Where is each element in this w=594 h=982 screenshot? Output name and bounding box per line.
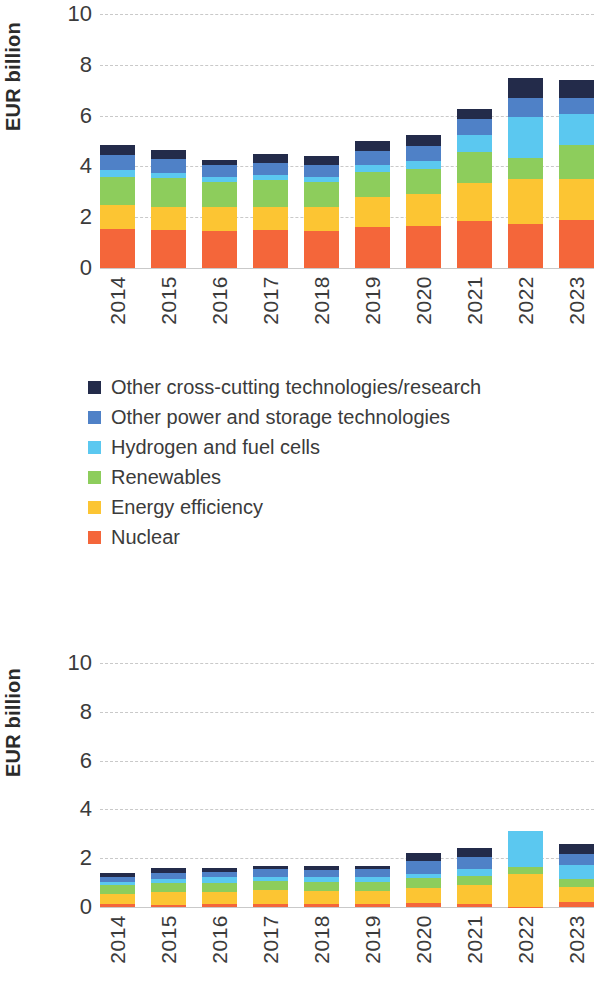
x-axis-tick-label: 2016 <box>208 915 232 964</box>
legend-item-label: Other power and storage technologies <box>111 407 450 427</box>
bar-2016 <box>202 868 237 907</box>
bar-segment-other-cross-cutting-technologies-research <box>457 848 492 856</box>
x-axis-tick-label: 2014 <box>106 915 130 964</box>
bar-segment-nuclear <box>355 904 390 907</box>
bar-segment-renewables <box>406 169 441 194</box>
x-axis-tick-2023: 2023 <box>559 276 594 325</box>
bar-segment-energy-efficiency <box>100 205 135 229</box>
bar-segment-hydrogen-and-fuel-cells <box>457 135 492 153</box>
bar-segment-other-power-and-storage-technologies <box>406 146 441 161</box>
x-axis-tick-label: 2019 <box>361 915 385 964</box>
legend-swatch-icon <box>88 501 101 514</box>
axis-baseline <box>100 907 594 908</box>
legend-item-energy-efficiency: Energy efficiency <box>88 492 568 522</box>
bar-segment-energy-efficiency <box>304 891 339 904</box>
x-axis-tick-2015: 2015 <box>151 276 186 325</box>
x-axis-tick-2017: 2017 <box>253 276 288 325</box>
bar-segment-nuclear <box>100 229 135 268</box>
bar-segment-other-power-and-storage-technologies <box>304 165 339 176</box>
stacked-bar-chart-top: EUR billion 0246810 20142015201620172018… <box>0 0 594 360</box>
legend-item-label: Nuclear <box>111 527 180 547</box>
bar-segment-other-cross-cutting-technologies-research <box>559 80 594 98</box>
bar-segment-energy-efficiency <box>202 207 237 231</box>
bar-segment-renewables <box>304 182 339 207</box>
legend-item-label: Other cross-cutting technologies/researc… <box>111 377 481 397</box>
bar-segment-other-cross-cutting-technologies-research <box>253 154 288 163</box>
bar-segment-nuclear <box>304 231 339 268</box>
y-axis-tick-label: 0 <box>80 896 92 918</box>
x-axis-tick-2023: 2023 <box>559 915 594 964</box>
x-axis-tick-label: 2022 <box>514 915 538 964</box>
plot-area-top <box>100 14 594 268</box>
bar-segment-nuclear <box>253 230 288 268</box>
y-axis-tick-label: 4 <box>80 155 92 177</box>
bar-segment-renewables <box>355 172 390 197</box>
x-axis-tick-2014: 2014 <box>100 276 135 325</box>
y-axis-tick-label: 8 <box>80 701 92 723</box>
x-axis-tick-label: 2016 <box>208 276 232 325</box>
bar-segment-hydrogen-and-fuel-cells <box>559 114 594 144</box>
y-axis-tick-label: 10 <box>68 652 92 674</box>
bar-segment-other-cross-cutting-technologies-research <box>559 844 594 855</box>
y-axis-tick-label: 6 <box>80 105 92 127</box>
bar-2021 <box>457 848 492 907</box>
y-axis-tick-label: 2 <box>80 206 92 228</box>
bar-2019 <box>355 866 390 907</box>
y-axis-tick-label: 2 <box>80 847 92 869</box>
x-axis-tick-label: 2017 <box>259 276 283 325</box>
bar-segment-energy-efficiency <box>253 890 288 903</box>
x-axis-tick-2019: 2019 <box>355 276 390 325</box>
bar-2014 <box>100 145 135 268</box>
bar-group-top <box>100 14 594 268</box>
bar-segment-nuclear <box>202 231 237 268</box>
x-axis-tick-2016: 2016 <box>202 915 237 964</box>
bar-segment-renewables <box>559 879 594 887</box>
bar-segment-other-cross-cutting-technologies-research <box>355 141 390 151</box>
bar-segment-energy-efficiency <box>406 194 441 226</box>
bar-segment-energy-efficiency <box>508 874 543 907</box>
bar-segment-nuclear <box>253 904 288 907</box>
x-axis-ticks-top: 2014201520162017201820192020202120222023 <box>100 276 594 325</box>
y-axis-title-top: EUR billion <box>2 2 25 152</box>
legend-item-label: Renewables <box>111 467 221 487</box>
bar-segment-other-power-and-storage-technologies <box>508 98 543 117</box>
bar-segment-renewables <box>406 878 441 888</box>
bar-segment-other-cross-cutting-technologies-research <box>406 853 441 861</box>
bar-2022 <box>508 78 543 268</box>
x-axis-tick-label: 2021 <box>463 276 487 325</box>
x-axis-tick-label: 2020 <box>412 915 436 964</box>
bar-segment-energy-efficiency <box>559 179 594 220</box>
bar-2018 <box>304 156 339 268</box>
bar-2020 <box>406 853 441 907</box>
bar-segment-other-power-and-storage-technologies <box>559 98 594 115</box>
y-axis-ticks-top: 0246810 <box>44 0 92 288</box>
legend-item-other-power-storage: Other power and storage technologies <box>88 402 568 432</box>
bar-segment-energy-efficiency <box>355 197 390 227</box>
x-axis-tick-2015: 2015 <box>151 915 186 964</box>
bar-segment-other-power-and-storage-technologies <box>304 870 339 877</box>
bar-segment-renewables <box>457 876 492 884</box>
bar-segment-other-power-and-storage-technologies <box>559 854 594 864</box>
bar-2015 <box>151 868 186 907</box>
bar-segment-other-power-and-storage-technologies <box>355 151 390 165</box>
bar-2017 <box>253 154 288 268</box>
legend-swatch-icon <box>88 441 101 454</box>
bar-2023 <box>559 80 594 268</box>
bar-segment-nuclear <box>406 903 441 907</box>
bar-2014 <box>100 873 135 907</box>
x-axis-ticks-bottom: 2014201520162017201820192020202120222023 <box>100 915 594 964</box>
x-axis-tick-label: 2019 <box>361 276 385 325</box>
x-axis-tick-label: 2023 <box>565 276 589 325</box>
bar-segment-energy-efficiency <box>202 892 237 904</box>
chart-legend: Other cross-cutting technologies/researc… <box>88 372 568 552</box>
x-axis-tick-2022: 2022 <box>508 276 543 325</box>
bar-2021 <box>457 109 492 268</box>
bar-segment-renewables <box>304 882 339 891</box>
bar-segment-energy-efficiency <box>253 207 288 230</box>
bar-segment-renewables <box>457 152 492 182</box>
legend-item-nuclear: Nuclear <box>88 522 568 552</box>
bar-2020 <box>406 135 441 268</box>
legend-item-label: Energy efficiency <box>111 497 263 517</box>
bar-segment-other-power-and-storage-technologies <box>406 861 441 874</box>
bar-segment-other-power-and-storage-technologies <box>151 159 186 173</box>
